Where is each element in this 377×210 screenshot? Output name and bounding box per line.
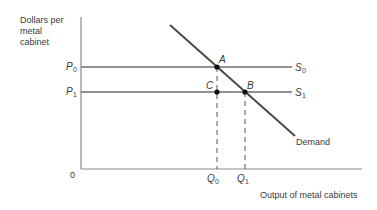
x-tick-q1: Q 1 — [237, 173, 249, 185]
svg-text:Q: Q — [207, 173, 215, 184]
y-tick-p1: P 1 — [66, 86, 77, 98]
y-axis-label-line-1: Dollars per — [20, 15, 64, 25]
svg-text:0: 0 — [73, 66, 77, 73]
y-axis-label-line-3: cabinet — [20, 37, 50, 47]
svg-text:0: 0 — [302, 67, 306, 74]
svg-text:P: P — [66, 86, 73, 97]
point-b-label: B — [247, 80, 254, 91]
supply-label-s1: S 1 — [295, 87, 306, 99]
x-axis-label: Output of metal cabinets — [260, 190, 358, 200]
point-c — [214, 89, 219, 94]
chart: Dollars per metal cabinet 0 P 0 P 1 S 0 … — [0, 0, 377, 210]
svg-text:1: 1 — [73, 91, 77, 98]
demand-line — [170, 25, 295, 136]
svg-text:S: S — [295, 87, 302, 98]
y-axis-label-line-2: metal — [20, 26, 42, 36]
point-c-label: C — [206, 80, 214, 91]
x-tick-q0: Q 0 — [207, 173, 219, 185]
demand-label: Demand — [296, 137, 330, 147]
origin-label: 0 — [70, 170, 75, 180]
svg-text:0: 0 — [215, 178, 219, 185]
svg-text:1: 1 — [302, 92, 306, 99]
svg-text:S: S — [295, 62, 302, 73]
svg-text:Q: Q — [237, 173, 245, 184]
svg-text:P: P — [66, 61, 73, 72]
supply-label-s0: S 0 — [295, 62, 306, 74]
point-a — [214, 64, 219, 69]
point-a-label: A — [218, 54, 226, 65]
svg-text:1: 1 — [245, 178, 249, 185]
y-tick-p0: P 0 — [66, 61, 77, 73]
